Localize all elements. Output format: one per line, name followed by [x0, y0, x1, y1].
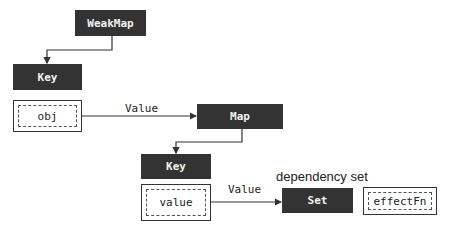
set-node: Set [282, 188, 353, 213]
value-node: value [141, 184, 211, 221]
map-label: Map [230, 110, 250, 123]
set-label: Set [308, 194, 328, 207]
value-label: value [159, 196, 192, 209]
key-node-inner: Key [141, 154, 211, 179]
value-inner-dashed: value [146, 189, 206, 216]
obj-node: obj [13, 100, 82, 132]
effectfn-inner-dashed: effectFn [368, 192, 432, 210]
map-node: Map [197, 104, 283, 129]
effectfn-label: effectFn [374, 195, 427, 208]
key-node-outer: Key [13, 64, 82, 90]
key-label-inner: Key [166, 160, 186, 173]
key-label-outer: Key [38, 71, 58, 84]
edge-map-to-key [176, 129, 242, 153]
edge-weakmap-to-key [47, 36, 112, 63]
weakmap-node: WeakMap [75, 10, 146, 36]
obj-inner-dashed: obj [18, 105, 77, 127]
weakmap-label: WeakMap [87, 17, 133, 30]
edge-label-obj-map: Value [125, 102, 158, 115]
obj-label: obj [38, 110, 58, 123]
diagram-canvas: WeakMap Key obj Value Map Key value Valu… [0, 0, 449, 230]
dependency-set-caption: dependency set [276, 169, 368, 184]
edge-label-value-set: Value [228, 183, 261, 196]
effectfn-node: effectFn [363, 187, 437, 215]
